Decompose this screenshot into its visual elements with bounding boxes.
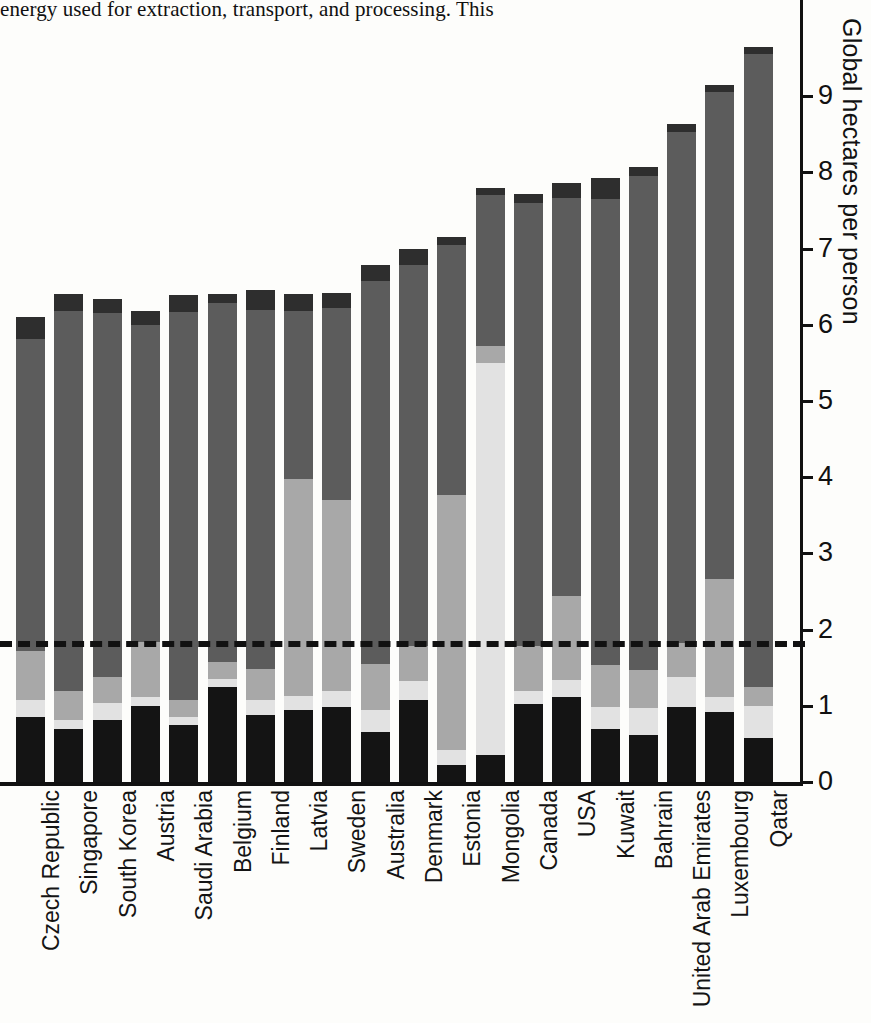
bar-austria[interactable] <box>131 311 160 782</box>
bar-bahrain[interactable] <box>629 167 658 782</box>
bar-belgium[interactable] <box>208 294 237 782</box>
y-axis-label: Global hectares per person <box>837 18 866 325</box>
bar-segment-cropland <box>93 720 122 782</box>
bar-segment-carbon <box>437 245 466 495</box>
bar-segment-forest-land <box>667 643 696 677</box>
bar-finland[interactable] <box>246 290 275 782</box>
bar-segment-grazing-land <box>361 710 390 733</box>
bar-segment-forest-land <box>591 665 620 707</box>
bar-sweden[interactable] <box>322 293 351 782</box>
bar-segment-grazing-land <box>552 680 581 697</box>
bar-segment-carbon <box>705 92 734 578</box>
bar-segment-built-up-land <box>246 290 275 310</box>
x-label-saudi-arabia: Saudi Arabia <box>193 790 216 920</box>
bar-canada[interactable] <box>514 194 543 782</box>
bar-segment-grazing-land <box>705 697 734 712</box>
bar-qatar[interactable] <box>744 47 773 782</box>
bar-kuwait[interactable] <box>591 178 620 782</box>
bar-segment-grazing-land <box>629 708 658 735</box>
bar-segment-grazing-land <box>399 681 428 700</box>
bar-segment-built-up-land <box>744 47 773 55</box>
bar-segment-carbon <box>629 176 658 670</box>
bar-segment-carbon <box>284 311 313 479</box>
bar-australia[interactable] <box>361 265 390 782</box>
bar-singapore[interactable] <box>54 294 83 782</box>
bar-segment-built-up-land <box>629 167 658 176</box>
bar-segment-forest-land <box>744 687 773 706</box>
bar-segment-forest-land <box>629 670 658 708</box>
bar-segment-grazing-land <box>16 700 45 717</box>
bar-segment-cropland <box>629 735 658 782</box>
x-label-estonia: Estonia <box>461 790 484 867</box>
x-label-australia: Australia <box>385 790 408 879</box>
bar-usa[interactable] <box>552 183 581 782</box>
bar-segment-cropland <box>552 697 581 782</box>
bar-luxembourg[interactable] <box>705 85 734 782</box>
bar-latvia[interactable] <box>284 294 313 782</box>
bar-segment-forest-land <box>399 646 428 680</box>
x-label-kuwait: Kuwait <box>615 790 638 859</box>
bar-segment-built-up-land <box>208 294 237 303</box>
bar-czech-republic[interactable] <box>16 317 45 782</box>
bar-segment-forest-land <box>437 495 466 750</box>
bar-segment-carbon <box>399 265 428 646</box>
bar-segment-cropland <box>705 712 734 782</box>
y-axis-line <box>800 0 803 786</box>
x-label-finland: Finland <box>270 790 293 865</box>
bar-segment-forest-land <box>476 346 505 363</box>
bar-segment-grazing-land <box>284 696 313 710</box>
bar-segment-grazing-land <box>208 679 237 687</box>
x-label-austria: Austria <box>155 790 178 862</box>
bar-segment-cropland <box>208 687 237 782</box>
bar-segment-built-up-land <box>322 293 351 308</box>
bar-segment-built-up-land <box>93 299 122 313</box>
y-tick-3 <box>800 552 813 555</box>
bar-mongolia[interactable] <box>476 188 505 782</box>
bar-segment-carbon <box>744 54 773 686</box>
bar-estonia[interactable] <box>437 237 466 782</box>
x-label-mongolia: Mongolia <box>500 790 523 883</box>
bar-segment-built-up-land <box>476 188 505 196</box>
y-tick-label-0: 0 <box>818 768 833 795</box>
bar-segment-carbon <box>514 203 543 646</box>
x-label-denmark: Denmark <box>423 790 446 883</box>
bar-segment-built-up-land <box>399 249 428 266</box>
bar-segment-forest-land <box>552 596 581 680</box>
bar-segment-built-up-land <box>54 294 83 311</box>
bar-saudi-arabia[interactable] <box>169 295 198 782</box>
bar-segment-forest-land <box>93 677 122 703</box>
bar-segment-forest-land <box>54 691 83 720</box>
y-tick-label-1: 1 <box>818 692 833 719</box>
bar-segment-forest-land <box>131 642 160 697</box>
bar-segment-forest-land <box>322 500 351 691</box>
y-tick-label-2: 2 <box>818 616 833 643</box>
bar-segment-grazing-land <box>476 363 505 755</box>
bar-united-arab-emirates[interactable] <box>667 124 696 782</box>
x-label-singapore: Singapore <box>78 790 101 895</box>
y-tick-1 <box>800 705 813 708</box>
bar-segment-cropland <box>744 738 773 782</box>
bar-denmark[interactable] <box>399 249 428 782</box>
bar-segment-carbon <box>246 310 275 670</box>
x-label-south-korea: South Korea <box>117 790 140 918</box>
bar-segment-carbon <box>322 308 351 500</box>
bar-segment-built-up-land <box>361 265 390 282</box>
bar-segment-carbon <box>361 281 390 664</box>
bar-segment-cropland <box>667 707 696 782</box>
bar-segment-built-up-land <box>284 294 313 311</box>
bar-segment-cropland <box>399 700 428 782</box>
bar-segment-built-up-land <box>131 311 160 325</box>
x-label-bahrain: Bahrain <box>653 790 676 869</box>
bar-segment-cropland <box>54 729 83 782</box>
bar-segment-forest-land <box>169 700 198 717</box>
bar-segment-grazing-land <box>246 700 275 715</box>
bar-segment-cropland <box>322 707 351 782</box>
y-tick-label-9: 9 <box>818 82 833 109</box>
bar-segment-forest-land <box>514 646 543 690</box>
y-tick-label-5: 5 <box>818 387 833 414</box>
x-label-united-arab-emirates: United Arab Emirates <box>691 790 714 1007</box>
bar-segment-carbon <box>476 195 505 346</box>
y-tick-label-6: 6 <box>818 311 833 338</box>
bar-segment-built-up-land <box>705 85 734 93</box>
bar-south-korea[interactable] <box>93 299 122 782</box>
